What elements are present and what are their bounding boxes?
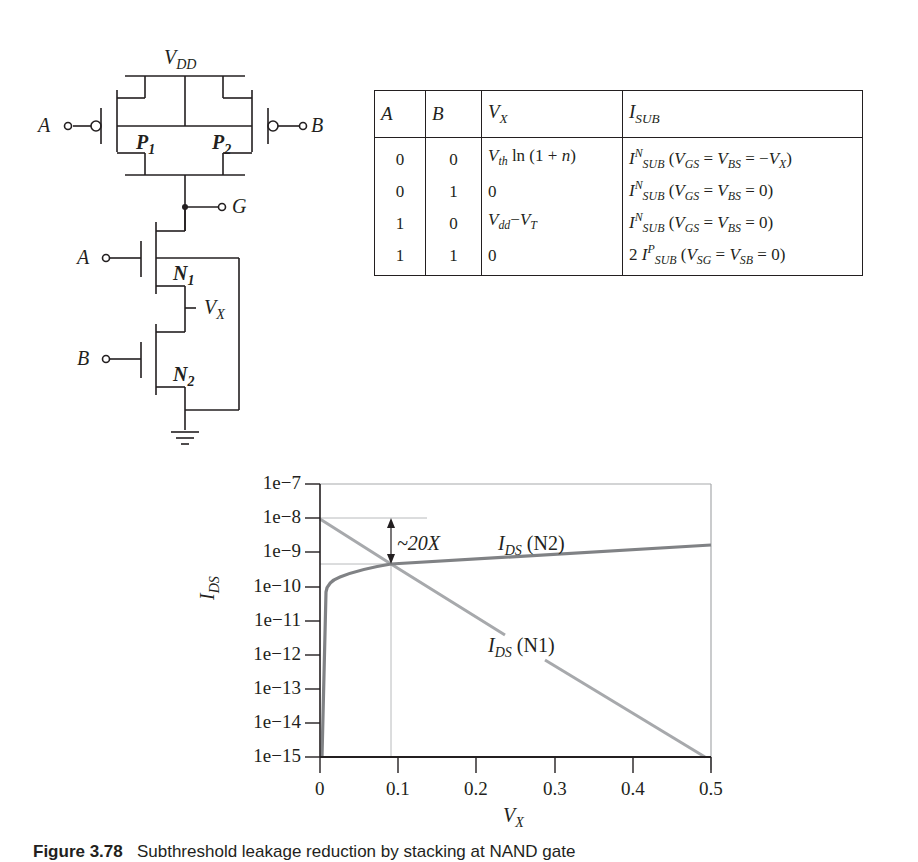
y-tick-label: 1e−7 [263, 472, 301, 494]
x-axis-title-main: V [503, 804, 515, 826]
x-tick-label: 0.4 [621, 778, 645, 800]
x-axis-title: VX [503, 804, 524, 831]
y-tick-label: 1e−8 [263, 506, 301, 528]
y-tick-label: 1e−13 [253, 677, 301, 699]
x-tick-label: 0.3 [543, 778, 567, 800]
y-tick-label: 1e−15 [253, 745, 301, 767]
ratio-annotation: ~20X [397, 532, 440, 555]
series-n2-label: IDS (N2) [498, 532, 565, 559]
n1-label-main: I [488, 634, 495, 656]
n2-label-main: I [498, 532, 505, 554]
x-tick-label: 0.1 [386, 778, 410, 800]
caption-label: Figure 3.78 [33, 842, 123, 861]
n1-label-sub: DS [495, 645, 512, 660]
x-axis-title-sub: X [515, 815, 524, 830]
figure-caption: Figure 3.78 Subthreshold leakage reducti… [33, 842, 575, 862]
x-tick-label: 0.2 [464, 778, 488, 800]
n1-label-paren: (N1) [517, 634, 555, 656]
y-axis-title: IDS [196, 576, 223, 600]
caption-text: Subthreshold leakage reduction by stacki… [137, 842, 575, 861]
y-tick-label: 1e−9 [263, 540, 301, 562]
y-axis-title-sub: DS [207, 576, 222, 593]
y-tick-label: 1e−12 [253, 643, 301, 665]
x-tick-label: 0 [315, 778, 325, 800]
y-tick-label: 1e−11 [254, 609, 301, 631]
n2-label-sub: DS [505, 543, 522, 558]
y-tick-label: 1e−10 [253, 575, 301, 597]
x-tick-label: 0.5 [699, 778, 723, 800]
y-axis-title-main: I [196, 593, 218, 600]
series-n1-label: IDS (N1) [488, 634, 555, 661]
y-tick-label: 1e−14 [253, 711, 301, 733]
n2-label-paren: (N2) [527, 532, 565, 554]
